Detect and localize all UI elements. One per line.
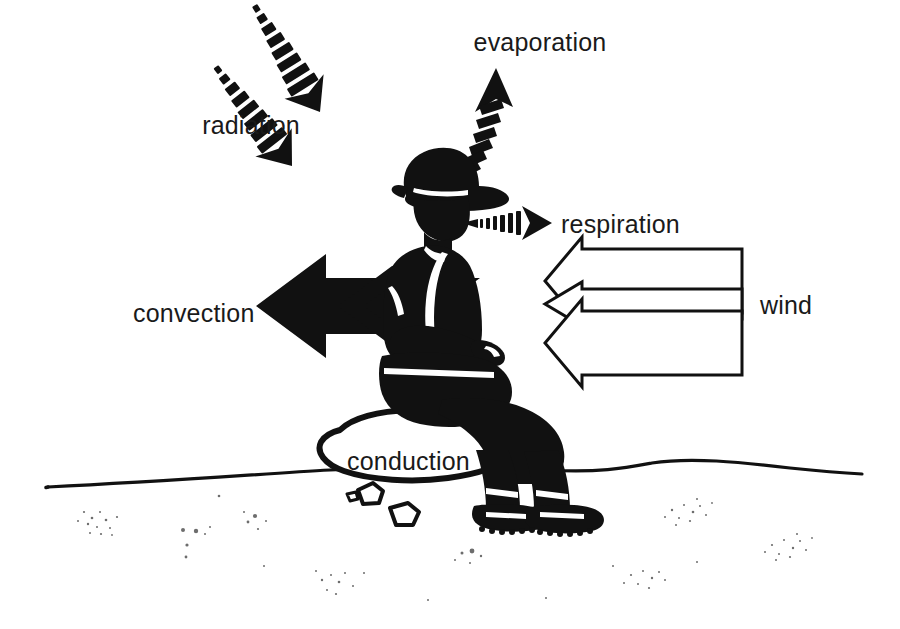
respiration-arrow-head <box>522 206 552 240</box>
pebble-2 <box>390 503 419 525</box>
respiration-arrow-group <box>462 206 552 240</box>
heat-exchange-diagram: evaporation radiation respiration wind c… <box>0 0 900 629</box>
wind-arrow-3 <box>545 299 742 387</box>
label-evaporation: evaporation <box>474 28 607 56</box>
figure-canvas: evaporation radiation respiration wind c… <box>0 0 900 629</box>
pebble-1 <box>358 483 383 504</box>
respiration-arrow-tail <box>462 211 521 235</box>
label-respiration: respiration <box>561 210 680 238</box>
convection-arrow-main <box>256 254 400 358</box>
pebble-3 <box>347 492 358 501</box>
radiation-arrow-1-tail <box>240 0 319 97</box>
person-head <box>413 198 469 242</box>
radiation-arrow-group <box>197 0 340 180</box>
ground-group <box>46 460 862 601</box>
label-convection: convection <box>133 299 255 327</box>
radiation-arrow-2-tail <box>202 58 287 154</box>
ground-horizon-taper <box>46 487 48 488</box>
label-conduction: conduction <box>347 447 470 475</box>
person-hat-brim-back <box>392 185 408 198</box>
sand-speckles <box>77 495 813 601</box>
wind-arrow-group <box>545 237 742 387</box>
label-radiation: radiation <box>202 111 300 139</box>
label-wind: wind <box>759 291 812 319</box>
